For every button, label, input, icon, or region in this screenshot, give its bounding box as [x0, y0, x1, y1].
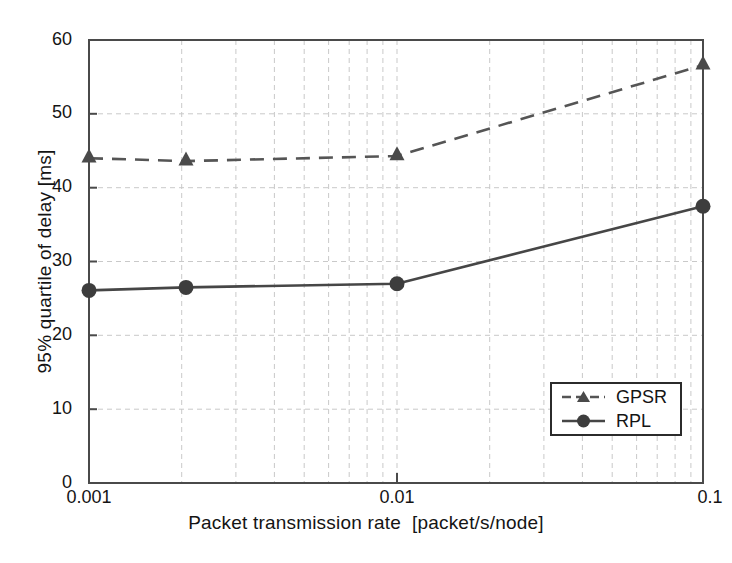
y-axis-ticks — [89, 40, 97, 483]
series-markers-gpsr — [82, 56, 711, 166]
chart-canvas — [0, 0, 732, 563]
series-line-gpsr — [89, 65, 703, 161]
legend-label-gpsr: GPSR — [616, 387, 667, 408]
x-tick-label-0-001: 0.001 — [44, 487, 134, 508]
x-tick-label-0-1: 0.1 — [665, 487, 732, 508]
chart-figure: 0 10 20 30 40 50 60 0.001 0.01 0.1 Packe… — [0, 0, 732, 563]
x-tick-label-0-01: 0.01 — [352, 487, 442, 508]
y-axis-title: 95% quartile of delay [ms] — [34, 40, 56, 483]
series-markers-rpl — [82, 199, 711, 298]
x-axis-ticks — [89, 473, 703, 483]
legend-label-rpl: RPL — [616, 411, 651, 432]
x-axis-title: Packet transmission rate [packet/s/node] — [0, 512, 732, 534]
